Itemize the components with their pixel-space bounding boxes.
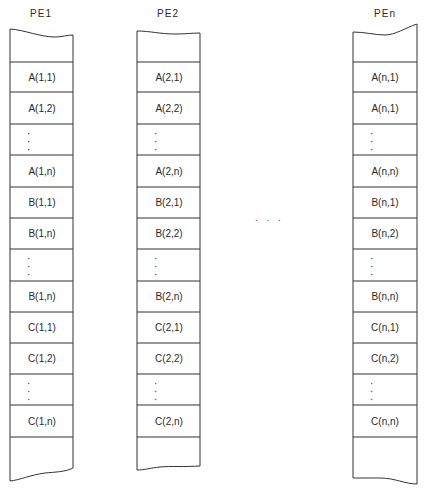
memory-cell: B(1,n)	[10, 281, 74, 312]
memory-cell: B(2,1)	[137, 187, 201, 218]
vertical-ellipsis: ···	[353, 374, 417, 405]
memory-cell: C(1,1)	[10, 312, 74, 343]
memory-cell: A(n,n)	[353, 156, 417, 187]
memory-cell: A(1,n)	[10, 156, 74, 187]
vertical-ellipsis: ···	[353, 249, 417, 280]
memory-cell: B(n,2)	[353, 218, 417, 249]
memory-cell: C(n,1)	[353, 312, 417, 343]
vertical-ellipsis: ···	[10, 124, 74, 155]
memory-cell: A(2,1)	[137, 62, 201, 93]
pe1-label: PE1	[9, 8, 73, 19]
memory-cell: B(1,1)	[10, 187, 74, 218]
between-columns-ellipsis: . . .	[255, 212, 284, 223]
vertical-ellipsis: ···	[137, 124, 201, 155]
pen-label: PEn	[353, 8, 417, 19]
memory-cell: A(n,1)	[353, 93, 417, 124]
memory-cell: C(1,2)	[10, 343, 74, 374]
memory-cell: C(2,2)	[137, 343, 201, 374]
memory-cell: B(2,n)	[137, 281, 201, 312]
memory-cell: B(n,1)	[353, 187, 417, 218]
vertical-ellipsis: ···	[137, 374, 201, 405]
memory-cell: A(1,1)	[10, 62, 74, 93]
memory-cell: A(1,2)	[10, 93, 74, 124]
memory-cell: B(n,n)	[353, 281, 417, 312]
memory-cell: C(n,n)	[353, 406, 417, 437]
memory-cell: A(2,2)	[137, 93, 201, 124]
pe2-label: PE2	[136, 8, 200, 19]
memory-cell: A(2,n)	[137, 156, 201, 187]
memory-cell: B(2,2)	[137, 218, 201, 249]
vertical-ellipsis: ···	[353, 124, 417, 155]
vertical-ellipsis: ···	[10, 374, 74, 405]
memory-cell: C(n,2)	[353, 343, 417, 374]
memory-cell: A(n,1)	[353, 62, 417, 93]
vertical-ellipsis: ···	[137, 249, 201, 280]
vertical-ellipsis: ···	[10, 249, 74, 280]
memory-cell: C(1,n)	[10, 406, 74, 437]
memory-cell: C(2,n)	[137, 406, 201, 437]
memory-cell: B(1,n)	[10, 218, 74, 249]
memory-cell: C(2,1)	[137, 312, 201, 343]
